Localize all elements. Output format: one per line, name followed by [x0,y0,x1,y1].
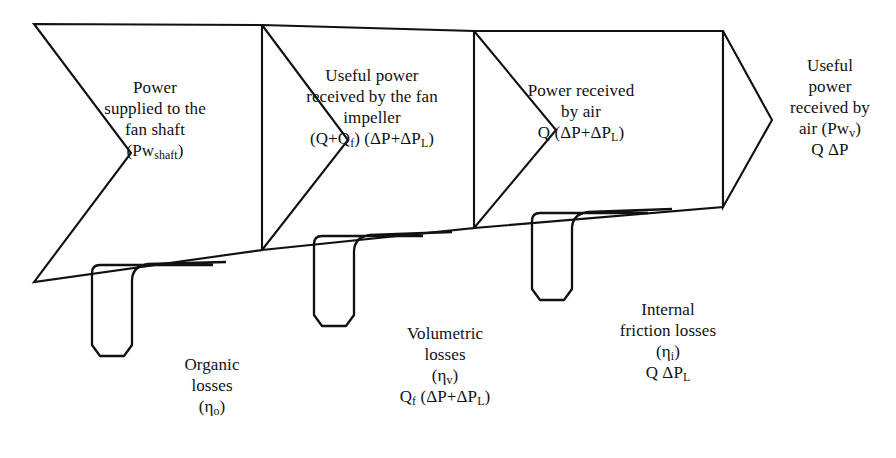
block-shape-power-received-by-air[interactable] [474,31,723,228]
block-shape-power-supplied-to-fan-shaft[interactable] [34,24,262,282]
block-shape-useful-power-received-by-air[interactable] [723,31,772,207]
loss-bracket-internal-friction [532,209,672,300]
block-shape-useful-power-received-by-fan-impeller[interactable] [262,25,474,250]
loss-bracket-organic [92,262,226,356]
diagram-canvas [0,0,896,458]
loss-bracket-volumetric [314,232,452,326]
fan-power-flow-diagram: Power supplied to the fan shaft (Pwshaft… [0,0,896,458]
